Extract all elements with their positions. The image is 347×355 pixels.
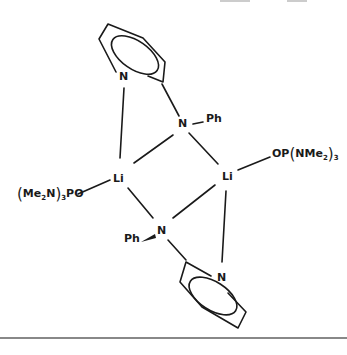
bond-pyridine-to-amide-top <box>162 84 179 116</box>
bond-li-right-hmpa <box>238 157 270 170</box>
top-pyridine-aromatic-circle <box>105 28 165 82</box>
atom-ph-top: Ph <box>206 113 222 124</box>
bond-li-right-nbottom <box>173 185 215 218</box>
hmpa-left-n: N <box>46 187 55 200</box>
hmpa-right-n: N <box>295 147 304 160</box>
hmpa-ligand-right: OP(NMe2)3 <box>272 147 339 162</box>
hmpa-left-me: Me <box>23 187 41 200</box>
atom-n-amide-top: N <box>178 118 187 129</box>
atom-n-amide-bottom: N <box>157 225 166 236</box>
atom-n-pyridine-bottom: N <box>217 272 226 283</box>
bond-li-left-nbottom <box>128 188 153 218</box>
bond-ntop-li-left <box>134 135 173 163</box>
bond-li-right-npyr-bottom <box>222 191 226 262</box>
bottom-pyridine-ring <box>180 262 246 328</box>
hmpa-right-me: Me <box>305 147 323 160</box>
hmpa-right-op: OP <box>272 147 289 160</box>
hmpa-left-po: PO <box>66 187 83 200</box>
atom-li-right: Li <box>222 171 233 182</box>
atom-ph-bottom: Ph <box>124 233 140 244</box>
atom-n-pyridine-top: N <box>119 71 128 82</box>
wedge-bond-ph-bottom <box>141 234 156 242</box>
atom-li-left: Li <box>113 173 124 184</box>
hmpa-right-group-sub: 3 <box>334 154 339 162</box>
hmpa-ligand-left: (Me2N)3PO <box>17 187 84 202</box>
bond-nbottom-pyridine <box>168 240 186 260</box>
molecule-structure <box>0 0 347 355</box>
horizontal-rule <box>0 337 347 339</box>
bond-npyr-to-li-left <box>120 88 124 158</box>
bond-n-ph-top <box>193 122 203 124</box>
bond-ntop-li-right <box>189 133 218 164</box>
